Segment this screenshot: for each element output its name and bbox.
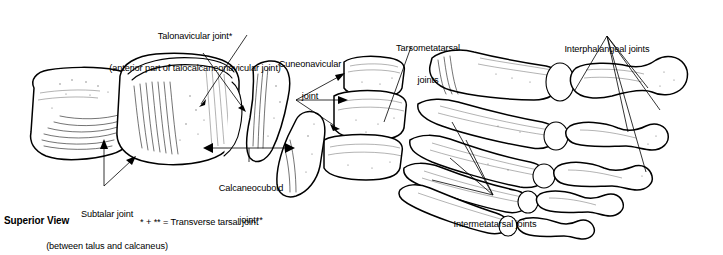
transverse-tarsal-footnote: * + ** = Transverse tarsal joint [140,217,400,228]
bone-medial-cuneiform [324,135,402,180]
label-cuneonavicular-line1: Cuneonavicular [262,59,358,70]
label-tarsometatarsal-line2: joints [380,75,476,86]
label-tarsometatarsal-line1: Tarsometatarsal [380,43,476,54]
label-intermetatarsal-joints: Intermetatarsal joints [425,198,565,251]
label-tarsometatarsal-joints: Tarsometatarsal joints [380,22,476,106]
view-label: Superior View [4,216,124,227]
label-subtalar-line2: (between talus and calcaneus) [24,241,190,252]
label-cuneonavicular-line2: joint [262,91,358,102]
bone-phalanges-toe-2 [566,122,669,150]
label-interphalangeal-joints: Interphalangeal joints [532,23,682,76]
label-intermetatarsal-line1: Intermetatarsal joints [425,219,565,230]
bone-phalanges-toe-3 [554,162,653,190]
label-calcaneocuboid-joint: Calcaneocuboid joint** [205,162,297,246]
label-calcaneocuboid-line1: Calcaneocuboid [205,183,297,194]
label-cuneonavicular-joint: Cuneonavicular joint [262,38,358,122]
label-interphalangeal-line1: Interphalangeal joints [532,44,682,55]
